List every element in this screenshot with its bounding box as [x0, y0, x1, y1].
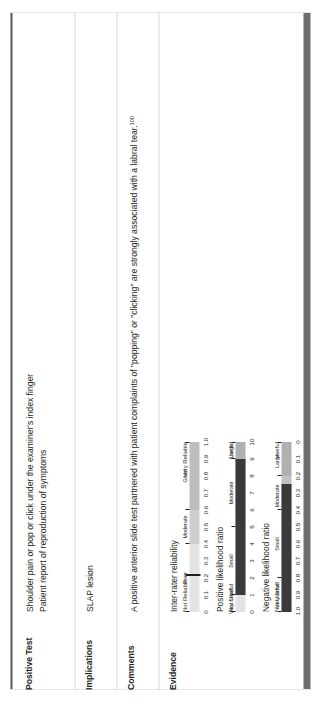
band-segment-large	[235, 442, 245, 459]
chart-negative-likelihood-ratio: Negative likelihood ratio Not Useful Use…	[260, 18, 301, 612]
axis-tick-10: 10	[246, 439, 255, 446]
axis-tick-3: 0.7	[292, 557, 301, 565]
band-label-moderate: Moderate	[227, 459, 234, 527]
band-label-small: Small	[227, 527, 234, 595]
chart-axis-ticks: 0 1 2 3 4 5 6 7 8 9 10	[246, 442, 255, 612]
table-top-rule	[10, 12, 12, 690]
row-content-evidence: Inter-rater reliability Not Reliable Ver…	[160, 12, 305, 612]
value-marker	[185, 574, 200, 576]
chart-title-inter-rater-reliability: Inter-rater reliability	[168, 18, 178, 612]
implications-line-1: SLAP lesion	[83, 18, 95, 612]
band-segment-poor	[189, 544, 199, 612]
positive-test-line-2: Patient report of reproduction of sympto…	[36, 18, 48, 612]
axis-tick-3: 3	[246, 559, 255, 562]
row-divider	[74, 12, 75, 690]
comments-text: A positive anterior slide test partnered…	[125, 18, 140, 612]
row-content-implications: SLAP lesion	[76, 12, 116, 612]
table-row: Implications SLAP lesion	[76, 12, 116, 690]
chart-title-positive-likelihood-ratio: Positive likelihood ratio	[214, 18, 224, 612]
table-row: Positive Test Shoulder pain or pop or cl…	[16, 12, 74, 690]
band-label-moderate: Moderate	[273, 479, 280, 513]
axis-tick-6: 6	[246, 508, 255, 511]
row-label-comments: Comments	[118, 612, 158, 690]
band-segment-good	[189, 442, 199, 510]
axis-tick-5: 0.5	[200, 523, 209, 531]
band-label-moderate: Moderate	[181, 510, 188, 544]
band-label-very-small: Very Small	[273, 578, 280, 612]
value-bar	[235, 459, 245, 595]
axis-tick-9: 9	[246, 457, 255, 460]
axis-tick-10: 1.0	[200, 438, 209, 446]
row-content-comments: A positive anterior slide test partnered…	[118, 12, 158, 612]
axis-tick-0: 0	[200, 610, 209, 613]
page-rotation-wrapper: Positive Test Shoulder pain or pop or cl…	[0, 0, 321, 702]
axis-tick-8: 8	[246, 474, 255, 477]
row-label-evidence: Evidence	[160, 612, 305, 690]
table-row: Evidence Inter-rater reliability Not Rel…	[160, 12, 305, 690]
axis-tick-4: 0.6	[292, 540, 301, 548]
axis-tick-1: 0.1	[200, 591, 209, 599]
axis-tick-6: 0.4	[292, 506, 301, 514]
axis-tick-8: 0.8	[200, 472, 209, 480]
axis-tick-0: 1.0	[292, 607, 301, 615]
chart-band: Poor Moderate Good	[189, 442, 199, 612]
value-bar	[281, 484, 291, 612]
row-label-implications: Implications	[76, 612, 116, 690]
axis-tick-0: 0	[246, 610, 255, 613]
band-tick	[277, 442, 281, 443]
axis-tick-8: 0.2	[292, 472, 301, 480]
axis-tick-5: 0.5	[292, 523, 301, 531]
chart-inter-rater-reliability: Inter-rater reliability Not Reliable Ver…	[168, 18, 209, 612]
band-label-large: Large	[227, 438, 234, 464]
axis-tick-3: 0.3	[200, 557, 209, 565]
chart-axis-ticks: 1.0 0.9 0.8 0.7 0.6 0.5 0.4 0.3 0.2 0.1 …	[292, 442, 301, 612]
band-label-very-small: Very Small	[227, 593, 234, 614]
axis-tick-1: 1	[246, 593, 255, 596]
chart-title-negative-likelihood-ratio: Negative likelihood ratio	[260, 18, 270, 612]
chart-band: Very Small Small Moderate Large	[235, 442, 245, 612]
row-divider	[116, 12, 117, 690]
axis-tick-2: 0.8	[292, 574, 301, 582]
chart-axis-ticks: 0 0.1 0.2 0.3 0.4 0.5 0.6 0.7 0.8 0.9 1.…	[200, 442, 209, 612]
chart-positive-likelihood-ratio: Positive likelihood ratio Not Useful Use…	[214, 18, 255, 612]
band-segment-large	[281, 442, 291, 476]
row-divider	[158, 12, 159, 690]
positive-test-line-1: Shoulder pain or pop or click under the …	[23, 18, 35, 612]
band-label-poor: Poor	[181, 544, 188, 612]
table-row: Comments A positive anterior slide test …	[118, 12, 158, 690]
axis-tick-10: 0	[292, 440, 301, 443]
axis-tick-7: 0.7	[200, 489, 209, 497]
axis-tick-6: 0.6	[200, 506, 209, 514]
row-content-positive-test: Shoulder pain or pop or click under the …	[16, 12, 74, 612]
band-segment-very-small	[235, 595, 245, 612]
axis-tick-7: 0.3	[292, 489, 301, 497]
band-label-large: Large	[273, 444, 280, 478]
document-page: Positive Test Shoulder pain or pop or cl…	[0, 0, 321, 702]
band-label-small: Small	[273, 510, 280, 578]
comments-reference: 100	[128, 116, 134, 125]
band-segment-moderate	[189, 510, 199, 544]
axis-tick-5: 5	[246, 525, 255, 528]
axis-tick-9: 0.1	[292, 455, 301, 463]
comments-line-1: A positive anterior slide test partnered…	[129, 125, 139, 612]
axis-tick-1: 0.9	[292, 591, 301, 599]
clinical-test-table: Positive Test Shoulder pain or pop or cl…	[10, 12, 310, 690]
axis-tick-2: 0.2	[200, 574, 209, 582]
row-label-positive-test: Positive Test	[16, 612, 74, 690]
axis-tick-9: 0.9	[200, 455, 209, 463]
axis-tick-2: 2	[246, 576, 255, 579]
band-label-good: Good	[181, 442, 188, 510]
axis-tick-7: 7	[246, 491, 255, 494]
axis-tick-4: 0.4	[200, 540, 209, 548]
axis-tick-4: 4	[246, 542, 255, 545]
chart-band: Very Small Small Moderate Large	[281, 442, 291, 612]
